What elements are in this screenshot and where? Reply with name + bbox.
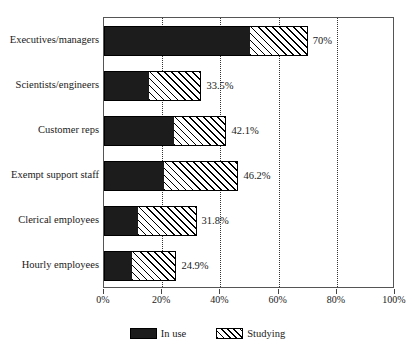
bar-segment-studying[interactable] <box>174 116 227 146</box>
x-axis-tick-label: 0% <box>83 294 123 305</box>
x-axis-tick-label: 80% <box>316 294 356 305</box>
legend-label: Studying <box>247 328 285 339</box>
bar-row[interactable] <box>104 161 238 191</box>
x-axis-tick-label: 100% <box>374 294 414 305</box>
x-axis-tick-label: 60% <box>258 294 298 305</box>
gridline <box>337 18 338 287</box>
category-label: Scientists/engineers <box>1 70 99 100</box>
gridline <box>220 18 221 287</box>
bar-row[interactable] <box>104 251 176 281</box>
x-axis-tick-label: 40% <box>199 294 239 305</box>
bar-segment-studying[interactable] <box>164 161 238 191</box>
bar-row[interactable] <box>104 116 226 146</box>
bar-segment-in-use[interactable] <box>104 161 164 191</box>
legend-swatch-in-use <box>130 328 157 339</box>
chart-legend: In useStudying <box>0 324 415 342</box>
category-label: Customer reps <box>1 115 99 145</box>
legend-swatch-studying <box>216 328 243 339</box>
bar-value-label: 24.9% <box>181 251 208 281</box>
x-axis-tick-labels: 0%20%40%60%80%100% <box>0 294 415 308</box>
category-label: Clerical employees <box>1 205 99 235</box>
category-axis-labels: Executives/managersScientists/engineersC… <box>0 17 99 288</box>
bar-value-label: 46.2% <box>243 161 270 191</box>
category-label: Executives/managers <box>1 25 99 55</box>
bar-row[interactable] <box>104 206 197 236</box>
gridline <box>162 18 163 287</box>
bar-segment-in-use[interactable] <box>104 26 250 56</box>
bar-value-label: 33.5% <box>206 71 233 101</box>
bar-segment-in-use[interactable] <box>104 71 149 101</box>
bar-segment-studying[interactable] <box>138 206 196 236</box>
chart-title-remnant <box>70 0 210 3</box>
bar-value-label: 42.1% <box>232 116 259 146</box>
legend-entry[interactable]: Studying <box>216 328 285 339</box>
bar-segment-studying[interactable] <box>149 71 201 101</box>
bar-segment-in-use[interactable] <box>104 116 174 146</box>
category-label: Exempt support staff <box>1 160 99 190</box>
legend-label: In use <box>161 328 186 339</box>
bar-row[interactable] <box>104 26 308 56</box>
gridline <box>279 18 280 287</box>
x-axis-tick-label: 20% <box>141 294 181 305</box>
category-label: Hourly employees <box>1 250 99 280</box>
bar-chart: Executives/managersScientists/engineersC… <box>0 0 415 351</box>
bar-segment-studying[interactable] <box>132 251 177 281</box>
bar-segment-in-use[interactable] <box>104 206 138 236</box>
plot-area: 70%33.5%42.1%46.2%31.8%24.9% <box>103 17 394 288</box>
bar-segment-studying[interactable] <box>250 26 308 56</box>
bar-segment-in-use[interactable] <box>104 251 132 281</box>
bar-row[interactable] <box>104 71 201 101</box>
bar-value-label: 31.8% <box>202 206 229 236</box>
bar-value-label: 70% <box>313 26 332 56</box>
legend-entry[interactable]: In use <box>130 328 186 339</box>
